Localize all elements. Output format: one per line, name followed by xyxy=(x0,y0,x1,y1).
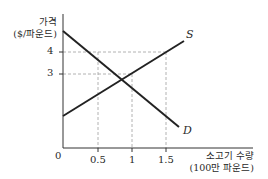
origin-label: 0 xyxy=(55,150,61,161)
x-tick-label-15: 1.5 xyxy=(158,154,174,165)
x-axis-label-line1: 소고기 수량 xyxy=(189,150,254,162)
y-tick-label-3: 3 xyxy=(47,67,53,78)
axes xyxy=(59,14,253,152)
y-axis-label-line1: 가격 xyxy=(13,16,57,28)
y-axis-label-line2: ($/파운드) xyxy=(13,28,57,40)
reference-lines xyxy=(63,52,166,148)
x-tick-label-1: 1 xyxy=(129,154,135,165)
x-axis-label-line2: (100만 파운드) xyxy=(189,162,254,174)
y-axis-label: 가격 ($/파운드) xyxy=(13,16,57,40)
x-axis-label: 소고기 수량 (100만 파운드) xyxy=(189,150,254,174)
y-tick-label-4: 4 xyxy=(47,45,53,56)
x-tick-label-05: 0.5 xyxy=(90,154,106,165)
demand-curve-label: D xyxy=(183,124,192,137)
supply-curve-label: S xyxy=(186,28,194,41)
